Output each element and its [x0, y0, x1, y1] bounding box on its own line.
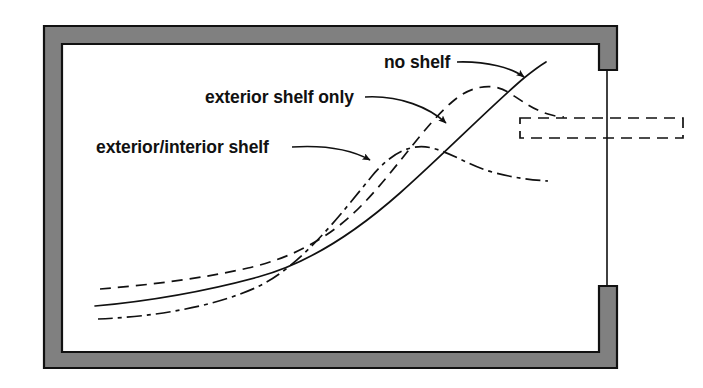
label-exterior-interior-shelf: exterior/interior shelf — [96, 137, 269, 157]
light-shelf — [520, 118, 683, 138]
shelf-comparison-diagram: no shelf exterior shelf only exterior/in… — [0, 0, 703, 388]
exterior-interior-shelf-curve — [98, 147, 548, 319]
label-exterior-shelf-only: exterior shelf only — [205, 87, 354, 107]
label-no-shelf: no shelf — [384, 52, 451, 72]
light-shelf-outline — [520, 118, 683, 138]
exterior-shelf-only-leader-line — [365, 97, 446, 123]
exterior-shelf-only-curve — [100, 87, 564, 289]
exterior-interior-shelf-leader-line — [292, 147, 370, 160]
no-shelf-leader-line — [457, 62, 524, 77]
diagram-canvas: no shelf exterior shelf only exterior/in… — [0, 0, 703, 388]
